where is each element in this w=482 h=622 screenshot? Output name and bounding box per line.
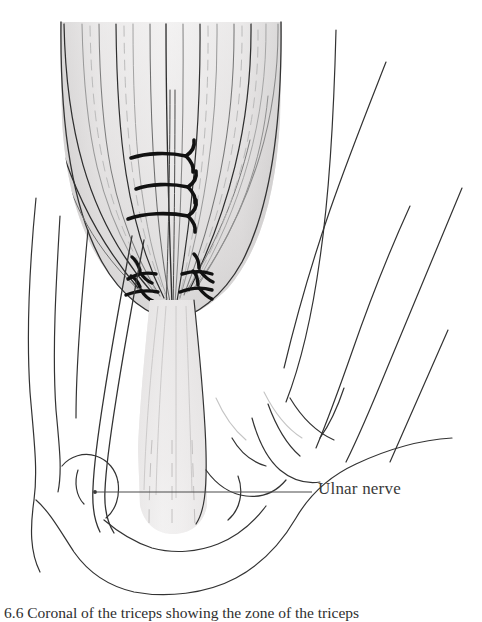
triceps-tendon [138, 300, 207, 534]
arm-contours-right [284, 30, 462, 462]
figure-caption: 6.6 Coronal of the triceps showing the z… [4, 604, 478, 622]
arm-contours-left [28, 198, 88, 572]
faint-contour [216, 392, 302, 440]
ulnar-nerve-label: Ulnar nerve [318, 479, 401, 499]
triceps-muscle-belly [46, 22, 282, 320]
